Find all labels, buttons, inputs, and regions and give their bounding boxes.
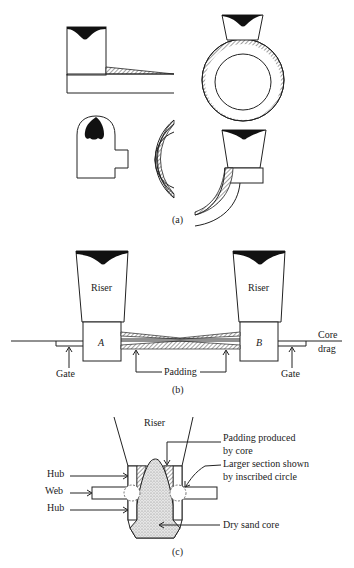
inscribed-circle-left: [124, 485, 140, 501]
caption-a: (a): [172, 214, 183, 226]
caption-b: (b): [172, 384, 184, 396]
gate-right: [278, 341, 306, 346]
ring-with-riser: [202, 15, 284, 121]
block-a-label: A: [97, 337, 105, 348]
riser-label: Riser: [144, 417, 166, 428]
dry-sand-core-label: Dry sand core: [223, 519, 280, 530]
panel-c: Riser Hub Web Hub Padding produced by c: [45, 417, 309, 558]
caption-c: (c): [172, 546, 183, 558]
padding-produced-label-2: by core: [223, 445, 253, 456]
side-riser-ring: [77, 116, 174, 198]
drag-label: drag: [318, 343, 336, 354]
gate-left-label: Gate: [56, 368, 75, 379]
hub-top-label: Hub: [47, 468, 64, 479]
padding-label: Padding: [164, 366, 197, 377]
padding-bottom: [121, 341, 240, 349]
padding-produced-label-1: Padding produced: [223, 432, 296, 443]
plate-with-tapered-padding: [67, 27, 174, 93]
riser-right-label: Riser: [248, 282, 270, 293]
larger-section-label-1: Larger section shown: [223, 458, 309, 469]
panel-b: Riser Riser A B Gate Gate Padding: [11, 251, 342, 396]
hub-bottom-label: Hub: [47, 502, 64, 513]
larger-section-label-2: by inscribed circle: [223, 471, 297, 482]
core-label: Core: [318, 329, 338, 340]
panel-a: (a): [67, 15, 284, 226]
inscribed-circle-right: [170, 485, 186, 501]
casting-padding-diagram: (a) Riser Riser A B Gate Gate: [0, 0, 354, 568]
block-b-label: B: [256, 337, 262, 348]
padding-top: [121, 332, 240, 339]
gate-right-label: Gate: [281, 368, 300, 379]
gate-left: [56, 341, 83, 346]
riser-left-label: Riser: [91, 282, 113, 293]
web-label: Web: [45, 485, 63, 496]
curved-arm-riser: [195, 130, 266, 226]
